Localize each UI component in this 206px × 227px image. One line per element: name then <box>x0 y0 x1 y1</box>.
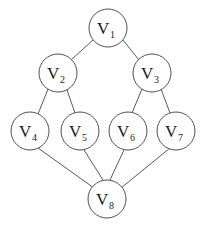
node-label-base-v8: V <box>96 190 109 209</box>
node-label-base-v3: V <box>141 64 154 83</box>
node-label-subscript-v5: 5 <box>82 132 87 143</box>
node-label-base-v4: V <box>19 122 32 141</box>
graph-node-v4[interactable]: V4 <box>11 112 49 150</box>
node-label-subscript-v8: 8 <box>109 200 114 211</box>
node-label-base-v5: V <box>69 122 82 141</box>
node-label-subscript-v4: 4 <box>32 132 37 143</box>
graph-node-v2[interactable]: V2 <box>39 54 77 92</box>
node-label-subscript-v2: 2 <box>60 74 65 85</box>
node-label-base-v6: V <box>117 122 130 141</box>
node-label-subscript-v7: 7 <box>178 132 183 143</box>
graph-node-v1[interactable]: V1 <box>89 9 127 47</box>
node-label-subscript-v3: 3 <box>154 74 159 85</box>
graph-node-v7[interactable]: V7 <box>157 112 195 150</box>
graph-node-v6[interactable]: V6 <box>109 112 147 150</box>
node-label-subscript-v6: 6 <box>130 132 135 143</box>
graph-node-v5[interactable]: V5 <box>61 112 99 150</box>
node-label-base-v7: V <box>165 122 178 141</box>
graph-node-v3[interactable]: V3 <box>133 54 171 92</box>
node-label-base-v2: V <box>47 64 60 83</box>
graph-node-v8[interactable]: V8 <box>88 180 126 218</box>
graph-diagram: V1V2V3V4V5V6V7V8 <box>0 0 206 227</box>
node-label-base-v1: V <box>97 19 110 38</box>
node-label-subscript-v1: 1 <box>110 29 115 40</box>
